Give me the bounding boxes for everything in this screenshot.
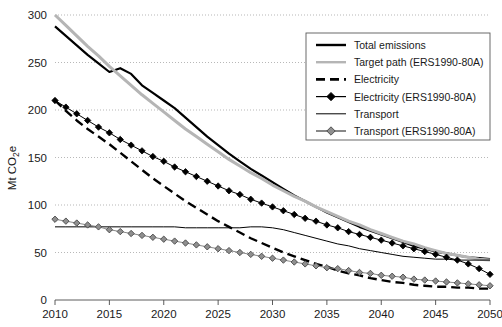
data-point-marker (106, 130, 112, 136)
y-tick-label-250: 250 (28, 57, 47, 69)
data-point-marker (291, 259, 297, 265)
data-point-marker (291, 211, 297, 217)
data-point-marker (335, 225, 341, 231)
data-point-marker (454, 280, 460, 286)
y-axis-tick-labels: 050100150200250300 (28, 9, 47, 306)
x-tick-label-2050: 2050 (477, 308, 502, 320)
data-point-marker (74, 220, 80, 226)
data-point-marker (280, 257, 286, 263)
data-point-marker (258, 253, 264, 259)
data-point-marker (95, 124, 101, 130)
data-point-marker (269, 255, 275, 261)
data-point-marker (248, 196, 254, 202)
data-point-marker (193, 242, 199, 248)
legend-label: Total emissions (354, 39, 426, 51)
data-point-marker (378, 272, 384, 278)
data-point-marker (106, 227, 112, 233)
data-point-marker (63, 104, 69, 110)
data-point-marker (487, 271, 493, 277)
data-point-marker (193, 173, 199, 179)
data-point-marker (139, 148, 145, 154)
legend-label: Electricity (ERS1990-80A) (354, 91, 476, 103)
data-point-marker (128, 230, 134, 236)
data-point-marker (215, 183, 221, 189)
data-point-marker (422, 277, 428, 283)
chart-canvas: 050100150200250300 201020152020202520302… (0, 0, 502, 327)
legend-label: Transport (354, 108, 399, 120)
legend-label: Target path (ERS1990-80A) (354, 56, 484, 68)
data-point-marker (324, 265, 330, 271)
data-point-marker (95, 224, 101, 230)
data-point-marker (171, 164, 177, 170)
data-point-marker (161, 158, 167, 164)
data-point-marker (63, 218, 69, 224)
data-point-marker (139, 232, 145, 238)
data-point-marker (150, 234, 156, 240)
chart-legend: Total emissionsTarget path (ERS1990-80A)… (306, 33, 490, 140)
y-tick-label-150: 150 (28, 152, 47, 164)
x-tick-label-2015: 2015 (97, 308, 123, 320)
data-point-marker (345, 228, 351, 234)
data-point-marker (74, 111, 80, 117)
y-tick-label-300: 300 (28, 9, 47, 21)
data-point-marker (389, 273, 395, 279)
x-tick-label-2025: 2025 (205, 308, 231, 320)
data-point-marker (204, 244, 210, 250)
data-point-marker (476, 282, 482, 288)
data-point-marker (171, 238, 177, 244)
data-point-marker (280, 208, 286, 214)
data-point-marker (367, 270, 373, 276)
data-point-marker (324, 222, 330, 228)
data-point-marker (465, 281, 471, 287)
x-tick-label-2010: 2010 (42, 308, 68, 320)
x-tick-label-2040: 2040 (368, 308, 394, 320)
data-point-marker (128, 142, 134, 148)
y-tick-label-0: 0 (41, 294, 47, 306)
data-point-marker (378, 237, 384, 243)
data-point-marker (182, 240, 188, 246)
y-tick-label-100: 100 (28, 199, 47, 211)
y-tick-label-200: 200 (28, 104, 47, 116)
data-point-marker (226, 188, 232, 194)
x-tick-label-2030: 2030 (260, 308, 286, 320)
data-point-marker (356, 231, 362, 237)
data-point-marker (204, 178, 210, 184)
data-point-marker (313, 218, 319, 224)
legend-label: Transport (ERS1990-80A) (354, 125, 476, 137)
data-point-marker (389, 240, 395, 246)
data-point-marker (117, 136, 123, 142)
data-point-marker (432, 278, 438, 284)
emissions-chart: 050100150200250300 201020152020202520302… (0, 0, 502, 327)
data-point-marker (161, 236, 167, 242)
x-axis-tick-labels: 201020152020202520302035204020452050 (42, 308, 502, 320)
data-point-marker (117, 228, 123, 234)
data-point-marker (84, 117, 90, 123)
data-point-marker (182, 169, 188, 175)
data-point-marker (465, 261, 471, 267)
legend-label: Electricity (354, 73, 400, 85)
x-tick-label-2020: 2020 (151, 308, 177, 320)
x-tick-label-2045: 2045 (423, 308, 449, 320)
data-point-marker (237, 249, 243, 255)
data-point-marker (367, 234, 373, 240)
data-point-marker (302, 215, 308, 221)
y-tick-label-50: 50 (34, 247, 47, 259)
y-axis-title-text: Mt CO2e (6, 146, 21, 190)
data-point-marker (237, 191, 243, 197)
data-point-marker (52, 216, 58, 222)
data-point-marker (443, 279, 449, 285)
data-point-marker (248, 251, 254, 257)
data-point-marker (215, 246, 221, 252)
data-point-marker (150, 153, 156, 159)
data-point-marker (476, 265, 482, 271)
x-tick-label-2035: 2035 (314, 308, 340, 320)
tick-marks-group (55, 300, 490, 305)
data-point-marker (400, 274, 406, 280)
data-point-marker (335, 265, 341, 271)
y-axis-title: Mt CO2e (6, 146, 21, 190)
data-point-marker (411, 276, 417, 282)
